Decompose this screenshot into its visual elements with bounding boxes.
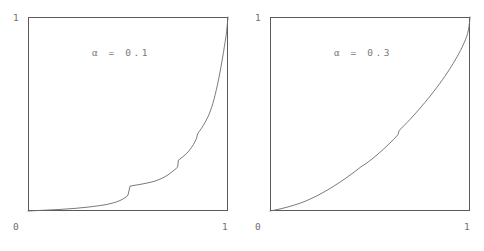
annotation-alpha-0-1: α = 0.1 xyxy=(0,47,242,58)
figure-container: α = 0.1 1 0 1 α = 0.3 1 0 1 xyxy=(0,0,484,251)
annotation-alpha-0-3: α = 0.3 xyxy=(242,47,484,58)
y-axis-min-label-left: 0 xyxy=(13,222,19,232)
plot-panel-alpha-0-1: α = 0.1 1 0 1 xyxy=(0,0,242,251)
y-axis-max-label-left: 1 xyxy=(13,13,19,23)
y-axis-min-label-right: 0 xyxy=(255,222,261,232)
y-axis-max-label-right: 1 xyxy=(255,13,261,23)
plot-panel-alpha-0-3: α = 0.3 1 0 1 xyxy=(242,0,484,251)
x-axis-max-label-left: 1 xyxy=(222,222,228,232)
x-axis-max-label-right: 1 xyxy=(464,222,470,232)
